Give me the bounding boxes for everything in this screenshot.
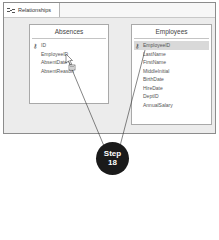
drag-field-cursor-icon bbox=[66, 54, 75, 70]
step-callout-badge: Step 18 bbox=[96, 142, 129, 175]
